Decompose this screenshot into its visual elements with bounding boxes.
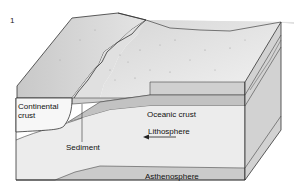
label-asthenosphere: Asthenosphere — [145, 172, 199, 181]
block-diagram — [0, 0, 294, 192]
label-sediment: Sediment — [66, 143, 100, 152]
label-continental-crust-line2: crust — [18, 111, 35, 120]
label-lithosphere: Lithosphere — [148, 127, 190, 136]
label-continental-crust-line1: Continental — [18, 102, 58, 111]
label-oceanic-crust: Oceanic crust — [147, 110, 196, 119]
